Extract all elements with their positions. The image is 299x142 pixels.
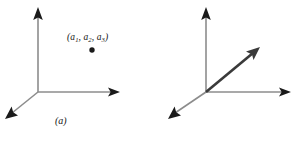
- point-label-a-component-3: a: [97, 32, 102, 42]
- panel-caption-a: (a): [55, 116, 67, 126]
- vector-line-b: [206, 53, 253, 92]
- axes-diagram-b: [149, 0, 299, 142]
- point-label-a-subscript-1: 1: [75, 36, 78, 43]
- x-axis-arrowhead-b: [168, 106, 181, 119]
- panel-a: (a1, a2, a3) (a): [0, 0, 150, 142]
- x-axis-line-a: [12, 92, 38, 113]
- point-label-a-close-paren: ): [105, 32, 108, 42]
- point-label-a: (a1, a2, a3): [67, 33, 108, 43]
- panel-b: (a1, a2, a3) (b): [149, 0, 299, 142]
- x-axis-arrowhead-a: [5, 106, 18, 119]
- x-axis-line-b: [175, 92, 206, 113]
- point-marker-a: [89, 47, 94, 52]
- axes-diagram-a: [0, 0, 150, 142]
- point-label-a-subscript-2: 2: [88, 36, 91, 43]
- point-label-a-subscript-3: 3: [102, 36, 105, 43]
- figure-root: (a1, a2, a3) (a) (a1, a2, a3) (b): [0, 0, 299, 142]
